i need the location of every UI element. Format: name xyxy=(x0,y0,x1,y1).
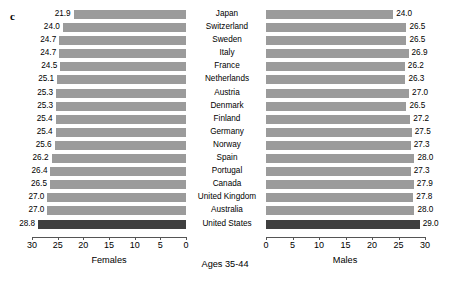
bar-males xyxy=(266,206,414,215)
category-label: Switzerland xyxy=(189,21,265,32)
bar-males xyxy=(266,23,406,32)
chart-row: 24.7Italy26.9 xyxy=(0,47,451,60)
left-axis-title: Females xyxy=(49,255,169,266)
value-label-females: 28.8 xyxy=(0,218,35,229)
chart-row: 25.4Finland27.2 xyxy=(0,113,451,126)
bar-males xyxy=(266,49,409,58)
value-label-males: 27.2 xyxy=(413,113,429,124)
bar-females xyxy=(55,141,186,150)
bar-males xyxy=(266,102,406,111)
right-axis-tick-label: 25 xyxy=(389,240,409,251)
bar-males xyxy=(266,115,410,124)
category-label: Finland xyxy=(189,113,265,124)
bar-females xyxy=(50,167,186,176)
value-label-males: 26.3 xyxy=(408,73,424,84)
value-label-males: 28.0 xyxy=(417,204,433,215)
bar-females xyxy=(56,115,186,124)
chart-row: 27.0United Kingdom27.8 xyxy=(0,191,451,204)
value-label-females: 27.0 xyxy=(0,191,44,202)
category-label: Austria xyxy=(189,87,265,98)
bar-females xyxy=(63,23,186,32)
value-label-females: 26.5 xyxy=(2,178,47,189)
bar-females xyxy=(74,10,186,19)
bar-females xyxy=(59,49,186,58)
chart-row: 24.7Sweden26.5 xyxy=(0,34,451,47)
bar-males xyxy=(266,180,414,189)
value-label-males: 27.3 xyxy=(414,139,430,150)
chart-title: Ages 35-44 xyxy=(165,259,285,270)
value-label-females: 25.3 xyxy=(8,100,53,111)
value-label-females: 21.9 xyxy=(26,8,71,19)
bar-males xyxy=(266,193,413,202)
bar-females xyxy=(56,102,186,111)
bar-males xyxy=(266,128,412,137)
value-label-males: 26.5 xyxy=(409,21,425,32)
value-label-females: 26.4 xyxy=(2,165,47,176)
value-label-males: 26.9 xyxy=(412,47,428,58)
category-label: Norway xyxy=(189,139,265,150)
figure-panel-c: c 21.9Japan24.024.0Switzerland26.524.7Sw… xyxy=(0,0,451,284)
bar-males xyxy=(266,167,411,176)
value-label-females: 25.1 xyxy=(9,73,54,84)
chart-row: 26.4Portugal27.3 xyxy=(0,165,451,178)
value-label-females: 24.7 xyxy=(11,47,56,58)
category-label: Denmark xyxy=(189,100,265,111)
chart-row: 25.3Austria27.0 xyxy=(0,87,451,100)
right-axis-tick-label: 10 xyxy=(309,240,329,251)
left-axis-tick-label: 15 xyxy=(99,240,119,251)
bar-females xyxy=(56,128,186,137)
left-axis-tick-label: 10 xyxy=(125,240,145,251)
chart-row: 24.5France26.2 xyxy=(0,60,451,73)
chart-row: 25.1Netherlands26.3 xyxy=(0,73,451,86)
right-axis-title: Males xyxy=(285,255,405,266)
value-label-males: 27.3 xyxy=(414,165,430,176)
right-axis-tick-label: 5 xyxy=(283,240,303,251)
bar-females xyxy=(57,75,186,84)
bar-females xyxy=(47,206,186,215)
bar-males xyxy=(266,62,405,71)
category-label: Portugal xyxy=(189,165,265,176)
chart-row: 25.6Norway27.3 xyxy=(0,139,451,152)
value-label-females: 24.5 xyxy=(12,60,57,71)
right-axis-tick-label: 0 xyxy=(256,240,276,251)
bar-males xyxy=(266,220,420,229)
chart-row: 26.2Spain28.0 xyxy=(0,152,451,165)
category-label: United States xyxy=(189,218,265,229)
bar-males xyxy=(266,36,406,45)
chart-rows: 21.9Japan24.024.0Switzerland26.524.7Swed… xyxy=(0,8,451,231)
left-axis-tick-label: 30 xyxy=(22,240,42,251)
category-label: Germany xyxy=(189,126,265,137)
value-label-males: 27.8 xyxy=(416,191,432,202)
chart-row: 25.3Denmark26.5 xyxy=(0,100,451,113)
value-label-females: 27.0 xyxy=(0,204,44,215)
chart-row: 27.0Australia28.0 xyxy=(0,204,451,217)
chart-row: 21.9Japan24.0 xyxy=(0,8,451,21)
bar-females xyxy=(50,180,186,189)
value-label-females: 24.0 xyxy=(15,21,60,32)
value-label-females: 24.7 xyxy=(11,34,56,45)
value-label-males: 24.0 xyxy=(396,8,412,19)
bar-males xyxy=(266,141,411,150)
category-label: Italy xyxy=(189,47,265,58)
bar-females xyxy=(59,36,186,45)
category-label: Australia xyxy=(189,204,265,215)
value-label-males: 27.9 xyxy=(417,178,433,189)
category-label: Spain xyxy=(189,152,265,163)
chart-row: 24.0Switzerland26.5 xyxy=(0,21,451,34)
chart-row: 28.8United States29.0 xyxy=(0,218,451,231)
right-axis-tick-label: 20 xyxy=(362,240,382,251)
value-label-females: 25.4 xyxy=(8,113,53,124)
category-label: Japan xyxy=(189,8,265,19)
chart-row: 26.5Canada27.9 xyxy=(0,178,451,191)
bar-males xyxy=(266,154,414,163)
bar-females xyxy=(38,220,186,229)
category-label: France xyxy=(189,60,265,71)
left-axis-tick-label: 0 xyxy=(176,240,196,251)
bar-females xyxy=(52,154,186,163)
value-label-females: 25.6 xyxy=(7,139,52,150)
category-label: Netherlands xyxy=(189,73,265,84)
bar-males xyxy=(266,10,393,19)
value-label-males: 26.2 xyxy=(408,60,424,71)
right-axis-tick-label: 30 xyxy=(415,240,435,251)
value-label-females: 25.3 xyxy=(8,87,53,98)
